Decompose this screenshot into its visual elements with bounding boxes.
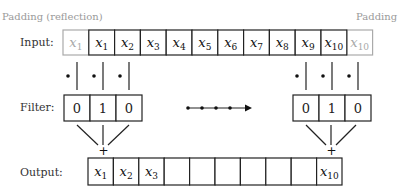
- right-sum-connectors: +: [306, 125, 356, 158]
- filter-cell: 0: [345, 95, 371, 121]
- filter-left: 010: [64, 95, 142, 121]
- right-padding-caption: Padding: [356, 11, 398, 22]
- input-cell: x9: [295, 30, 321, 55]
- multiply-dot-icon: [321, 74, 325, 78]
- output-cell: [240, 158, 265, 185]
- output-cell: x2: [113, 158, 138, 185]
- sum-plus-icon: +: [99, 144, 109, 158]
- filter-cell: 1: [90, 95, 116, 121]
- output-cell: [190, 158, 215, 185]
- output-cell: x1: [88, 158, 113, 185]
- slide-arrow-icon: [186, 105, 252, 112]
- input-padding-cell: x1: [63, 30, 89, 55]
- filter-cell: 0: [293, 95, 319, 121]
- input-cell: x7: [244, 30, 270, 55]
- input-row: x1x10x1x2x3x4x5x6x7x8x9x10: [63, 30, 373, 55]
- convolution-diagram: Padding (reflection) Padding Input: Filt…: [0, 0, 399, 194]
- output-cell: [291, 158, 316, 185]
- filter-weight: 0: [302, 101, 310, 116]
- input-label: Input:: [20, 36, 54, 49]
- multiply-dot-icon: [92, 74, 96, 78]
- multiply-dot-icon: [347, 74, 351, 78]
- output-label: Output:: [20, 166, 63, 179]
- input-cell: x4: [166, 30, 192, 55]
- multiply-dot-icon: [66, 74, 70, 78]
- filter-weight: 0: [125, 101, 133, 116]
- left-sum-connectors: +: [77, 125, 129, 158]
- input-cell: x3: [140, 30, 166, 55]
- filter-weight: 0: [354, 101, 362, 116]
- left-padding-caption: Padding (reflection): [2, 11, 103, 22]
- input-padding-cell: x10: [347, 30, 373, 55]
- input-cell: x1: [89, 30, 115, 55]
- filter-label: Filter:: [20, 101, 55, 114]
- input-cell: x2: [115, 30, 141, 55]
- left-filter-connectors: [66, 62, 129, 90]
- input-cell: x10: [321, 30, 347, 55]
- multiply-dot-icon: [295, 74, 299, 78]
- filter-cell: 0: [116, 95, 142, 121]
- multiply-dot-icon: [118, 74, 122, 78]
- output-cell: x3: [139, 158, 164, 185]
- input-cell: x6: [218, 30, 244, 55]
- output-cell: [164, 158, 189, 185]
- filter-weight: 0: [73, 101, 81, 116]
- sum-plus-icon: +: [327, 144, 337, 158]
- filter-cell: 1: [319, 95, 345, 121]
- output-row: x1x2x3x10: [88, 158, 342, 185]
- output-cell: [215, 158, 240, 185]
- output-cell: [266, 158, 291, 185]
- input-cell: x8: [269, 30, 295, 55]
- filter-right: 010: [293, 95, 371, 121]
- filter-cell: 0: [64, 95, 90, 121]
- output-cell: x10: [317, 158, 342, 185]
- filter-weight: 1: [99, 101, 107, 116]
- right-filter-connectors: [295, 62, 358, 90]
- filter-weight: 1: [328, 101, 336, 116]
- input-cell: x5: [192, 30, 218, 55]
